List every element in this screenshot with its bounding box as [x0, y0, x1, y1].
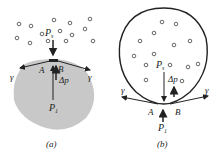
label-p1: P1: [157, 122, 167, 134]
liquid-drop: [14, 59, 95, 130]
surface-segment: [49, 59, 58, 62]
panel-a: Ps A B Δp P1 γ γ (a): [10, 17, 95, 149]
caption-a: (a): [46, 139, 57, 149]
gas-molecules: [132, 20, 200, 83]
panel-b: Ps Δp A B P1 γ γ (b): [119, 8, 209, 149]
caption-b: (b): [157, 139, 168, 149]
tension-arrow-right: [170, 96, 208, 104]
label-gamma-right: γ: [205, 85, 209, 95]
label-delta-p: Δp: [58, 75, 69, 85]
label-gamma-left: γ: [121, 85, 125, 95]
label-delta-p: Δp: [167, 74, 178, 84]
surface-tension-diagram: Ps A B Δp P1 γ γ (a) Ps Δp A B P1 γ γ (b: [0, 0, 216, 161]
label-b: B: [175, 107, 181, 117]
label-gamma-right: γ: [88, 72, 92, 82]
gas-molecules: [15, 17, 95, 45]
label-ps: Ps: [44, 27, 54, 39]
label-b: B: [58, 64, 64, 74]
label-a: A: [147, 107, 154, 117]
tension-arrow-left: [122, 97, 158, 104]
label-a: A: [38, 65, 45, 75]
label-gamma-left: γ: [10, 72, 14, 82]
label-ps: Ps: [155, 59, 165, 71]
